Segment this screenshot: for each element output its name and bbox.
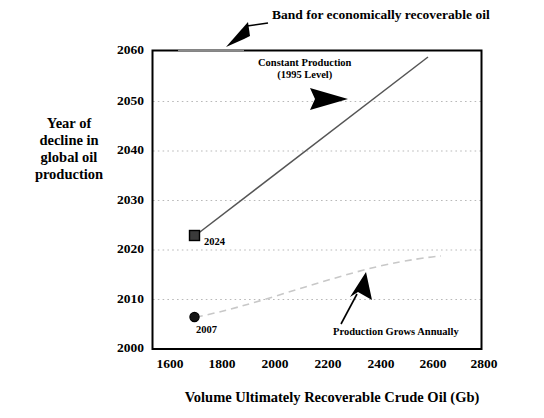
y-axis-title-line-2: decline in xyxy=(39,132,98,148)
point-label-2024: 2024 xyxy=(204,236,225,248)
y-tick-label-2050: 2050 xyxy=(98,93,144,108)
y-axis-title-line-3: global oil xyxy=(41,149,98,165)
x-tick-label-2600: 2600 xyxy=(407,356,459,371)
x-tick-label-2800: 2800 xyxy=(458,356,510,371)
series-constant-production xyxy=(196,57,428,235)
y-tick-label-2040: 2040 xyxy=(98,142,144,157)
growth-note-pointer xyxy=(341,272,372,324)
point-marker-2007 xyxy=(190,312,199,321)
y-axis-title-line-1: Year of xyxy=(47,115,91,131)
band-note-pointer xyxy=(226,22,268,47)
chart-figure: Year of decline in global oil production… xyxy=(0,0,544,418)
y-tick-label-2060: 2060 xyxy=(98,42,144,57)
y-tick-label-2020: 2020 xyxy=(98,241,144,256)
x-tick-label-2200: 2200 xyxy=(302,356,354,371)
point-label-2007: 2007 xyxy=(196,324,217,336)
constant-production-line-2: (1995 Level) xyxy=(277,69,332,80)
x-tick-label-2000: 2000 xyxy=(249,356,301,371)
constant-production-line-1: Constant Production xyxy=(258,57,351,68)
point-marker-2024 xyxy=(190,231,200,241)
y-tick-label-2000: 2000 xyxy=(98,340,144,355)
x-axis-title: Volume Ultimately Recoverable Crude Oil … xyxy=(130,389,534,405)
x-tick-label-1600: 1600 xyxy=(144,356,196,371)
series-production-grows-annually xyxy=(196,256,441,317)
band-annotation-label: Band for economically recoverable oil xyxy=(272,7,490,22)
constant-production-pointer xyxy=(310,88,348,110)
y-tick-label-2030: 2030 xyxy=(98,192,144,207)
x-tick-label-2400: 2400 xyxy=(355,356,407,371)
x-tick-label-1800: 1800 xyxy=(196,356,248,371)
y-tick-label-2010: 2010 xyxy=(98,291,144,306)
y-axis-title-line-4: production xyxy=(35,166,103,182)
constant-production-annotation-label: Constant Production (1995 Level) xyxy=(258,57,351,81)
gridlines xyxy=(153,102,481,300)
growth-annotation-label: Production Grows Annually xyxy=(333,326,459,338)
